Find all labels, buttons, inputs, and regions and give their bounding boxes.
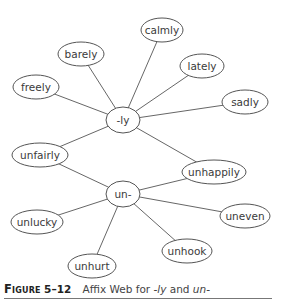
figure-caption: Figure 5–12 Affix Web for -ly and un- — [4, 282, 272, 299]
node-sadly: sadly — [222, 90, 268, 114]
node-barely: barely — [58, 42, 104, 66]
node-lately: lately — [180, 54, 224, 78]
figure-number: 5–12 — [44, 283, 71, 295]
figure-label: Figure — [4, 282, 41, 296]
caption-term-ly: -ly — [153, 283, 166, 295]
node-label: unhook — [168, 245, 208, 257]
node-label: barely — [65, 48, 98, 60]
node-un: un- — [106, 181, 140, 207]
affix-web-diagram: -lyun-calmlylatelysadlybarelyfreelyunfai… — [0, 0, 284, 280]
node-unhappily: unhappily — [182, 160, 246, 184]
node-label: unfairly — [20, 149, 60, 161]
node-label: sadly — [231, 96, 259, 108]
node-unhurt: unhurt — [68, 254, 116, 278]
node-label: lately — [187, 60, 216, 72]
node-label: un- — [114, 188, 131, 200]
node-uneven: uneven — [220, 204, 270, 228]
node-unfairly: unfairly — [12, 143, 68, 167]
nodes: -lyun-calmlylatelysadlybarelyfreelyunfai… — [11, 18, 270, 278]
node-label: unlucky — [17, 216, 58, 228]
node-calmly: calmly — [141, 18, 183, 42]
node-label: uneven — [225, 210, 264, 222]
node-freely: freely — [13, 75, 59, 99]
caption-text-mid: and — [166, 283, 192, 295]
node-label: unhappily — [188, 166, 240, 178]
node-label: unhurt — [74, 260, 109, 272]
caption-term-un: un- — [193, 283, 210, 295]
node-unlucky: unlucky — [11, 210, 63, 234]
caption-text-prefix: Affix Web for — [83, 283, 154, 295]
node-label: freely — [21, 81, 51, 93]
node-label: calmly — [145, 24, 179, 36]
node-unhook: unhook — [162, 239, 212, 263]
node-ly: -ly — [106, 107, 140, 133]
node-label: -ly — [117, 114, 130, 126]
